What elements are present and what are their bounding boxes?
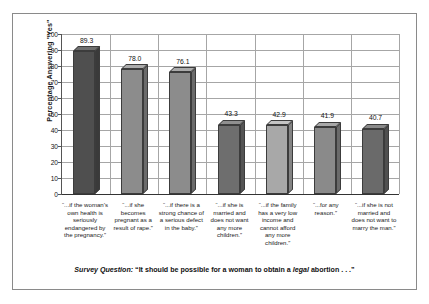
caption-quote-close: abortion . . .” (309, 266, 355, 274)
bar-2[interactable] (121, 69, 143, 194)
gridline-vertical (110, 34, 111, 194)
gridline-vertical (255, 34, 256, 194)
y-tick-label: 40 (51, 127, 58, 134)
survey-question-caption: Survey Question: “It should be possible … (13, 266, 416, 274)
y-tick-mark (58, 194, 62, 195)
category-label-row: “...if the woman’s own health is serious… (61, 201, 398, 263)
bar-side-face (143, 64, 148, 194)
bar-4[interactable] (218, 125, 240, 194)
y-tick-mark (58, 146, 62, 147)
bar-side-face (240, 120, 245, 194)
y-tick-mark (58, 130, 62, 131)
chart-frame: Percentage Answering "Yes" 0102030405060… (12, 13, 417, 290)
gridline-vertical (158, 34, 159, 194)
y-tick-label: 100 (47, 31, 58, 38)
y-tick-label: 90 (51, 47, 58, 54)
bar-front-face (266, 125, 288, 194)
gridline-vertical (351, 34, 352, 194)
bar-side-face (191, 67, 196, 194)
bar-3[interactable] (169, 72, 191, 194)
y-tick-label: 80 (51, 63, 58, 70)
plot-area: 010203040506070809010089.378.076.143.342… (61, 34, 399, 195)
bar-side-face (384, 124, 389, 194)
bar-5[interactable] (266, 125, 288, 194)
caption-quote-open: “It should be possible for a woman to ob… (133, 266, 293, 274)
bar-front-face (314, 127, 336, 194)
y-tick-mark (58, 98, 62, 99)
bar-value-label: 76.1 (176, 58, 189, 65)
category-label-6: “...for any reason.” (302, 201, 350, 263)
bar-front-face (169, 72, 191, 194)
bar-value-label: 78.0 (128, 55, 141, 62)
category-label-1: “...if the woman’s own health is serious… (61, 201, 109, 263)
gridline-horizontal (62, 50, 399, 51)
y-tick-mark (58, 66, 62, 67)
bar-value-label: 42.9 (273, 111, 286, 118)
y-tick-mark (58, 34, 62, 35)
bar-front-face (362, 129, 384, 194)
gridline-vertical (303, 34, 304, 194)
y-tick-mark (58, 162, 62, 163)
y-tick-label: 50 (51, 111, 58, 118)
caption-lead: Survey Question: (74, 266, 133, 274)
bar-side-face (288, 121, 293, 194)
gridline-horizontal (62, 82, 399, 83)
y-tick-mark (58, 82, 62, 83)
category-label-3: “...if there is a strong chance of a ser… (157, 201, 205, 263)
bar-6[interactable] (314, 127, 336, 194)
gridline-vertical (206, 34, 207, 194)
bar-front-face (73, 51, 95, 194)
category-label-5: “...if the family has a very low income … (254, 201, 302, 263)
y-tick-label: 10 (51, 175, 58, 182)
category-label-2: “...if she becomes pregnant as a result … (109, 201, 157, 263)
bar-1[interactable] (73, 51, 95, 194)
bar-value-label: 89.3 (80, 37, 93, 44)
bar-7[interactable] (362, 129, 384, 194)
y-tick-label: 70 (51, 79, 58, 86)
category-label-7: “...if she is not married and does not w… (350, 201, 398, 263)
y-tick-label: 0 (54, 191, 58, 198)
category-label-4: “...if she is married and does not want … (205, 201, 253, 263)
y-tick-mark (58, 114, 62, 115)
bar-front-face (218, 125, 240, 194)
y-tick-mark (58, 50, 62, 51)
gridline-horizontal (62, 98, 399, 99)
gridline-horizontal (62, 66, 399, 67)
bar-value-label: 43.3 (224, 110, 237, 117)
bar-value-label: 40.7 (369, 114, 382, 121)
y-tick-label: 30 (51, 143, 58, 150)
y-tick-label: 60 (51, 95, 58, 102)
y-tick-mark (58, 178, 62, 179)
gridline-vertical (399, 34, 400, 194)
y-tick-label: 20 (51, 159, 58, 166)
bar-front-face (121, 69, 143, 194)
bar-side-face (336, 122, 341, 194)
bar-value-label: 41.9 (321, 112, 334, 119)
caption-emphasis: legal (293, 266, 309, 274)
bar-side-face (95, 46, 100, 194)
gridline-horizontal (62, 34, 399, 35)
